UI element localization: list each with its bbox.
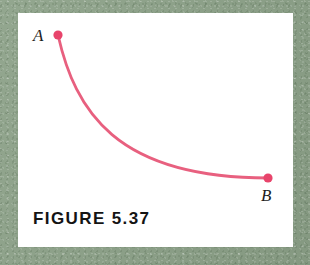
point-b-label: B [261, 187, 271, 204]
figure-caption: FIGURE 5.37 [33, 209, 150, 229]
figure-root: A B FIGURE 5.37 [0, 0, 310, 265]
figure-panel: A B FIGURE 5.37 [18, 13, 293, 247]
curve-path [58, 35, 268, 178]
point-a-label: A [33, 27, 43, 44]
point-b-marker [263, 173, 272, 182]
point-a-marker [53, 30, 62, 39]
